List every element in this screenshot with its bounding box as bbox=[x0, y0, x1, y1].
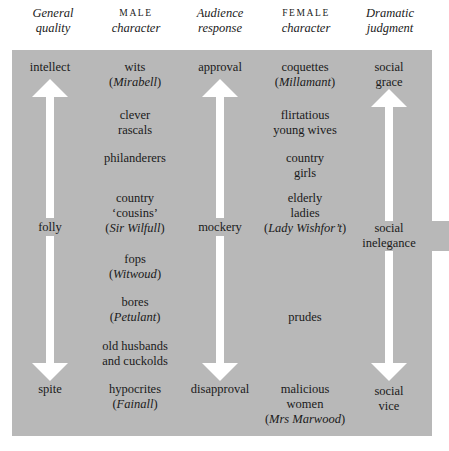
female-type: coquettes bbox=[245, 60, 365, 75]
female-character-malicious-women: malicious women (Mrs Marwood) bbox=[245, 382, 365, 427]
male-character-old-husbands: old husbands and cuckolds bbox=[75, 339, 195, 369]
male-example: (Sir Wilfull) bbox=[75, 221, 195, 236]
header-general-quality: General quality bbox=[8, 6, 98, 36]
general-arrow-down-head bbox=[32, 363, 68, 381]
male-character-wits: wits (Mirabell) bbox=[75, 60, 195, 90]
female-character-flirtatious-wives: flirtatious young wives bbox=[245, 108, 365, 138]
male-example: (Petulant) bbox=[75, 310, 195, 325]
header-audience-line1: Audience bbox=[175, 6, 265, 21]
male-type: bores bbox=[75, 295, 195, 310]
male-example: (Witwoud) bbox=[75, 267, 195, 282]
male-type: hypocrites bbox=[75, 382, 195, 397]
female-character-prudes: prudes bbox=[245, 310, 365, 325]
male-type: philanderers bbox=[75, 151, 195, 166]
header-general-quality-line2: quality bbox=[8, 21, 98, 36]
header-general-quality-line1: General bbox=[8, 6, 98, 21]
header-dramatic-line2: judgment bbox=[345, 21, 435, 36]
audience-arrow-up-head bbox=[202, 79, 238, 97]
female-example: (Millamant) bbox=[245, 75, 365, 90]
header-male-character: MALE character bbox=[91, 6, 181, 36]
male-type: fops bbox=[75, 252, 195, 267]
header-female-line2: character bbox=[261, 21, 351, 36]
header-female-line1: FEMALE bbox=[261, 6, 351, 21]
header-male-line1: MALE bbox=[91, 6, 181, 21]
male-example: (Mirabell) bbox=[75, 75, 195, 90]
general-middle-text: folly bbox=[38, 218, 62, 236]
female-type: malicious bbox=[245, 382, 365, 397]
header-audience-response: Audience response bbox=[175, 6, 265, 36]
female-example: (Mrs Marwood) bbox=[245, 412, 365, 427]
header-female-character: FEMALE character bbox=[261, 6, 351, 36]
dramatic-arrow-up-head bbox=[371, 89, 407, 107]
female-type: prudes bbox=[245, 310, 365, 325]
male-character-hypocrites: hypocrites (Fainall) bbox=[75, 382, 195, 412]
male-character-philanderers: philanderers bbox=[75, 151, 195, 166]
male-type: ‘cousins’ bbox=[75, 206, 195, 221]
female-type: ladies bbox=[245, 206, 365, 221]
female-type: girls bbox=[245, 166, 365, 181]
male-type: old husbands bbox=[75, 339, 195, 354]
general-arrow-up-head bbox=[32, 79, 68, 97]
header-male-line2: character bbox=[91, 21, 181, 36]
female-type: country bbox=[245, 151, 365, 166]
male-character-fops: fops (Witwoud) bbox=[75, 252, 195, 282]
female-example: (Lady Wishfor’t) bbox=[245, 221, 365, 236]
female-type: young wives bbox=[245, 123, 365, 138]
female-type: women bbox=[245, 397, 365, 412]
male-type: rascals bbox=[75, 123, 195, 138]
dramatic-arrow-down-head bbox=[371, 363, 407, 381]
dramatic-middle-line2: inelegance bbox=[329, 236, 449, 251]
male-character-country-cousins: country ‘cousins’ (Sir Wilfull) bbox=[75, 191, 195, 236]
female-character-country-girls: country girls bbox=[245, 151, 365, 181]
male-type: clever bbox=[75, 108, 195, 123]
header-audience-line2: response bbox=[175, 21, 265, 36]
male-character-clever-rascals: clever rascals bbox=[75, 108, 195, 138]
female-character-elderly-ladies: elderly ladies (Lady Wishfor’t) bbox=[245, 191, 365, 236]
male-type: wits bbox=[75, 60, 195, 75]
audience-middle-text: mockery bbox=[198, 218, 242, 236]
audience-arrow-down-head bbox=[202, 363, 238, 381]
header-dramatic-judgment: Dramatic judgment bbox=[345, 6, 435, 36]
header-dramatic-line1: Dramatic bbox=[345, 6, 435, 21]
female-type: flirtatious bbox=[245, 108, 365, 123]
female-character-coquettes: coquettes (Millamant) bbox=[245, 60, 365, 90]
male-type: country bbox=[75, 191, 195, 206]
male-character-bores: bores (Petulant) bbox=[75, 295, 195, 325]
male-type: and cuckolds bbox=[75, 354, 195, 369]
female-type: elderly bbox=[245, 191, 365, 206]
male-example: (Fainall) bbox=[75, 397, 195, 412]
